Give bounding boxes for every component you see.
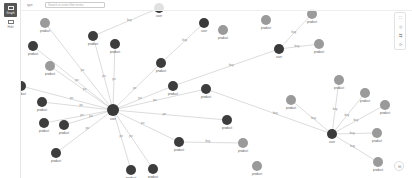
product-node[interactable]	[314, 39, 324, 49]
product-node[interactable]	[37, 97, 47, 107]
edge-label: buy	[182, 38, 187, 42]
focus-icon[interactable]: ◎	[399, 24, 402, 29]
graph-svg[interactable]: popopopopopopopopopopopopopopopopobuybuy…	[21, 0, 412, 178]
node-label: product	[360, 99, 370, 103]
product-node[interactable]	[168, 81, 178, 91]
node-label: product	[201, 95, 211, 99]
product-node[interactable]	[110, 39, 120, 49]
graph-edge[interactable]	[45, 23, 113, 110]
product-node[interactable]	[218, 25, 228, 35]
search-input[interactable]: Search or enter filter terms	[45, 2, 105, 8]
product-node[interactable]	[148, 164, 158, 174]
product-node[interactable]	[40, 18, 50, 28]
graph-edge[interactable]	[179, 142, 243, 143]
graph-edge[interactable]	[44, 110, 113, 123]
reset-icon[interactable]: ⟳	[399, 42, 402, 47]
product-node[interactable]	[174, 137, 184, 147]
node-label: user	[201, 29, 207, 33]
product-node[interactable]	[238, 138, 248, 148]
product-node[interactable]	[39, 118, 49, 128]
product-node[interactable]	[334, 75, 344, 85]
node-label: product	[88, 42, 98, 46]
graph-edge[interactable]	[113, 110, 153, 169]
node-label: product	[40, 29, 50, 33]
product-node[interactable]	[59, 120, 69, 130]
graph-edge[interactable]	[21, 86, 113, 110]
user-node[interactable]	[107, 104, 119, 116]
node-label: user	[156, 14, 162, 18]
edge-label: po	[89, 114, 93, 118]
node-label: product	[45, 72, 55, 76]
graph-explorer: Graph Hide popopopopopopopopopopopopopop…	[0, 0, 412, 178]
type-label: type	[27, 3, 33, 7]
edge-label: buy	[353, 118, 358, 122]
edge-label: po	[75, 78, 79, 82]
edge-label: po	[79, 103, 83, 107]
edge-label: po	[80, 113, 84, 117]
product-node[interactable]	[201, 84, 211, 94]
graph-edge[interactable]	[113, 86, 173, 110]
product-node[interactable]	[21, 81, 26, 91]
product-node[interactable]	[51, 148, 61, 158]
product-node[interactable]	[45, 61, 55, 71]
table-view-button[interactable]: Hide	[4, 20, 17, 32]
product-node[interactable]	[222, 115, 232, 125]
node-label: product	[168, 92, 178, 96]
graph-canvas[interactable]: popopopopopopopopopopopopopopopopobuybuy…	[21, 0, 412, 178]
node-label: product	[373, 168, 383, 172]
graph-edge[interactable]	[113, 63, 161, 110]
product-node[interactable]	[372, 128, 382, 138]
graph-edge[interactable]	[161, 23, 204, 63]
edge-label: buy	[350, 131, 355, 135]
graph-toolbar: ⛶ ◎ ⇆ ⟳	[394, 12, 406, 50]
product-node[interactable]	[360, 88, 370, 98]
product-node[interactable]	[126, 165, 136, 175]
node-label: product	[334, 86, 344, 90]
node-label: product	[174, 148, 184, 152]
node-label: product	[156, 69, 166, 73]
node-label: user	[110, 117, 116, 121]
table-view-label: Hide	[7, 25, 13, 29]
table-icon	[8, 20, 14, 24]
node-label: product	[37, 108, 47, 112]
edge-label: buy	[273, 111, 278, 115]
graph-edge[interactable]	[173, 49, 279, 86]
graph-icon	[8, 6, 14, 10]
product-node[interactable]	[261, 15, 271, 25]
node-label: product	[110, 50, 120, 54]
node-label: user	[329, 140, 335, 144]
graph-view-button[interactable]: Graph	[4, 3, 17, 17]
node-label: user	[276, 55, 282, 59]
node-label: product	[380, 111, 390, 115]
node-label: product	[126, 176, 136, 178]
node-label: product	[372, 139, 382, 143]
edge-label: po	[163, 112, 167, 116]
node-label: product	[307, 20, 317, 24]
product-node[interactable]	[252, 161, 262, 171]
settings-button[interactable]: ⊞	[394, 161, 404, 171]
graph-edge[interactable]	[42, 102, 113, 110]
graph-edge[interactable]	[113, 89, 206, 110]
product-node[interactable]	[380, 100, 390, 110]
graph-edge[interactable]	[93, 8, 159, 36]
user-node[interactable]	[199, 18, 209, 28]
layout-icon[interactable]: ⇆	[399, 33, 402, 38]
product-node[interactable]	[88, 31, 98, 41]
fit-icon[interactable]: ⛶	[399, 15, 402, 20]
edge-label: buy	[333, 107, 338, 111]
product-node[interactable]	[286, 95, 296, 105]
product-node[interactable]	[28, 41, 38, 51]
product-node[interactable]	[373, 157, 383, 167]
user-node[interactable]	[274, 44, 284, 54]
filter-header: type Search or enter filter terms	[21, 0, 412, 11]
graph-view-label: Graph	[6, 11, 14, 15]
node-label: product	[252, 172, 262, 176]
product-node[interactable]	[156, 58, 166, 68]
node-label: product	[21, 92, 26, 96]
node-label: product	[218, 36, 228, 40]
edge-label: po	[81, 68, 85, 72]
user-node[interactable]	[327, 129, 337, 139]
node-label: product	[28, 52, 38, 56]
edge-label: po	[129, 134, 133, 138]
node-label: product	[314, 50, 324, 54]
